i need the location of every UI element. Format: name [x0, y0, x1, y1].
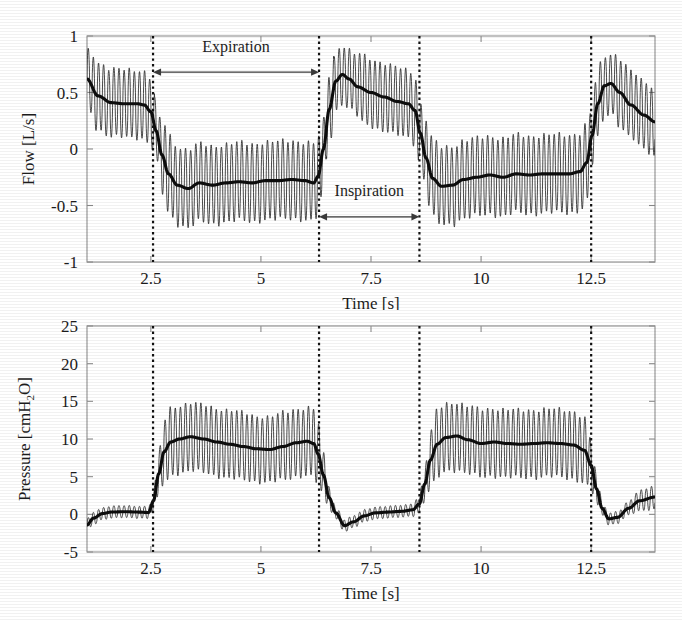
x-tick-label: 5 [257, 269, 266, 288]
x-tick-label: 5 [257, 559, 266, 578]
arrow-head-left-icon [319, 213, 327, 220]
flow-chart-panel: 2.557.51012.5-1-0.500.51Time [s]Flow [L/… [0, 0, 682, 310]
oscillatory-signal-trace [87, 402, 655, 531]
arrow-head-left-icon [153, 69, 161, 76]
y-tick-label: -0.5 [51, 197, 78, 216]
annotation-label: Inspiration [335, 182, 404, 200]
oscillatory-signal-trace [87, 48, 655, 228]
pressure-chart-panel: 2.557.51012.5-50510152025Time [s]Pressur… [0, 310, 682, 620]
x-axis-title: Time [s] [342, 294, 399, 310]
y-tick-label: 5 [70, 468, 79, 487]
mean-signal-trace [87, 74, 655, 188]
y-tick-label: 15 [61, 392, 78, 411]
x-tick-label: 12.5 [576, 269, 606, 288]
plot-frame [87, 326, 655, 552]
x-tick-label: 7.5 [360, 559, 381, 578]
arrow-head-right-icon [311, 69, 319, 76]
x-axis-title: Time [s] [342, 584, 399, 603]
x-tick-label: 2.5 [140, 269, 161, 288]
y-tick-label: 10 [61, 430, 78, 449]
arrow-head-right-icon [411, 213, 419, 220]
y-tick-label: -5 [64, 543, 78, 562]
y-tick-label: 1 [70, 27, 79, 46]
y-tick-label: 0 [70, 140, 79, 159]
x-tick-label: 7.5 [360, 269, 381, 288]
phase-annotation: Inspiration [319, 182, 419, 220]
y-tick-label: 0.5 [57, 84, 78, 103]
y-axis-title: Flow [L/s] [19, 113, 38, 185]
flow-panel: 2.557.51012.5-1-0.500.51Time [s]Flow [L/… [0, 0, 682, 310]
pressure-panel: 2.557.51012.5-50510152025Time [s]Pressur… [0, 310, 682, 620]
y-tick-label: 20 [61, 355, 78, 374]
y-tick-label: 0 [70, 505, 79, 524]
annotation-label: Expiration [202, 38, 270, 56]
phase-annotation: Expiration [153, 38, 319, 76]
respiratory-waveform-figure: 2.557.51012.5-1-0.500.51Time [s]Flow [L/… [0, 0, 682, 620]
y-tick-label: -1 [64, 253, 78, 272]
x-tick-label: 10 [473, 269, 490, 288]
x-tick-label: 10 [473, 559, 490, 578]
x-tick-label: 12.5 [576, 559, 606, 578]
y-axis-title: Pressure [cmH2O] [15, 377, 36, 501]
x-tick-label: 2.5 [140, 559, 161, 578]
y-tick-label: 25 [61, 317, 78, 336]
